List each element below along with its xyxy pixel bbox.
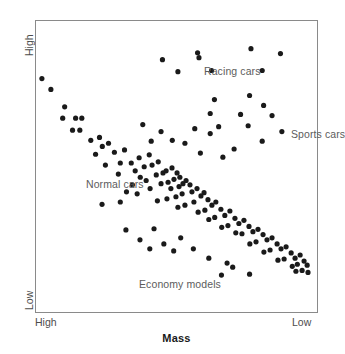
scatter-point (77, 128, 82, 133)
scatter-point (260, 232, 265, 237)
scatter-point (301, 258, 306, 263)
scatter-point (232, 216, 237, 221)
scatter-point (206, 217, 211, 222)
scatter-point (290, 264, 295, 269)
scatter-point (261, 249, 266, 254)
scatter-point (149, 139, 154, 144)
scatter-point (100, 144, 105, 149)
scatter-point (169, 165, 174, 170)
scatter-point (140, 122, 145, 127)
scatter-point (212, 215, 217, 220)
scatter-point (225, 223, 230, 228)
scatter-point (148, 186, 153, 191)
scatter-point (149, 162, 154, 167)
scatter-point (155, 198, 160, 203)
scatter-point (222, 213, 227, 218)
scatter-point (269, 113, 274, 118)
scatter-point (284, 244, 289, 249)
scatter-point (171, 177, 176, 182)
scatter-point (282, 256, 287, 261)
scatter-point (175, 69, 180, 74)
scatter-point (133, 168, 138, 173)
scatter-point (129, 160, 134, 165)
scatter-point (196, 55, 201, 60)
scatter-point (192, 126, 197, 131)
scatter-point (189, 189, 194, 194)
scatter-point (247, 241, 252, 246)
scatter-point (253, 239, 258, 244)
scatter-point (269, 235, 274, 240)
scatter-point (97, 135, 102, 140)
scatter-point (191, 246, 196, 251)
scatter-point (142, 164, 147, 169)
scatter-point (156, 159, 161, 164)
scatter-point (118, 160, 123, 165)
y-axis-low-label: Low (23, 291, 35, 310)
y-axis-high-label: High (23, 34, 35, 56)
scatter-point (233, 230, 238, 235)
scatter-series (39, 76, 310, 275)
scatter-point (62, 104, 67, 109)
scatter-point (275, 241, 280, 246)
scatter-point (208, 131, 213, 136)
scatter-point (116, 171, 121, 176)
scatter-point (174, 170, 179, 175)
scatter-point (216, 124, 221, 129)
scatter-point (164, 196, 169, 201)
scatter-point (168, 186, 173, 191)
scatter-point (160, 57, 165, 62)
scatter-point (260, 139, 265, 144)
scatter-point (298, 252, 303, 257)
scatter-point (182, 141, 187, 146)
scatter-point (246, 224, 251, 229)
scatter-point (106, 141, 111, 146)
scatter-point (241, 218, 246, 223)
scatter-point (48, 87, 53, 92)
scatter-point (173, 194, 178, 199)
scatter-point (70, 128, 75, 133)
scatter-point (213, 199, 218, 204)
scatter-point (196, 210, 201, 215)
scatter-point (73, 116, 78, 121)
scatter-point (247, 272, 252, 277)
annotation-normal-cars: Normal cars (86, 178, 144, 190)
scatter-point (279, 129, 284, 134)
scatter-point (99, 202, 104, 207)
scatter-point (295, 262, 300, 267)
scatter-point (278, 51, 283, 56)
scatter-point (219, 225, 224, 230)
scatter-point (305, 263, 310, 268)
scatter-point (250, 229, 255, 234)
scatter-point (170, 138, 175, 143)
scatter-point (202, 208, 207, 213)
scatter-point (267, 247, 272, 252)
scatter-point (112, 150, 117, 155)
scatter-point (88, 138, 93, 143)
scatter-point (177, 175, 182, 180)
scatter-point (182, 203, 187, 208)
scatter-point (305, 270, 310, 275)
scatter-point (247, 93, 252, 98)
scatter-point (293, 256, 298, 261)
x-axis-low-label: Low (292, 316, 311, 328)
scatter-point (171, 248, 176, 253)
plot-area: Racing cars Sports cars Normal cars Econ… (35, 20, 318, 313)
scatter-point (183, 178, 188, 183)
scatter-point (147, 152, 152, 157)
scatter-point (164, 168, 169, 173)
scatter-point (135, 191, 140, 196)
scatter-point (39, 76, 44, 81)
scatter-point (60, 116, 65, 121)
scatter-point (178, 235, 183, 240)
scatter-point (239, 231, 244, 236)
scatter-point (261, 103, 266, 108)
scatter-point (289, 250, 294, 255)
annotation-racing-cars: Racing cars (204, 65, 261, 77)
scatter-point (79, 116, 84, 121)
x-axis-high-label: High (35, 316, 57, 328)
scatter-point (180, 191, 185, 196)
x-axis-title: Mass (35, 332, 318, 344)
scatter-point (212, 97, 217, 102)
scatter-point (175, 205, 180, 210)
